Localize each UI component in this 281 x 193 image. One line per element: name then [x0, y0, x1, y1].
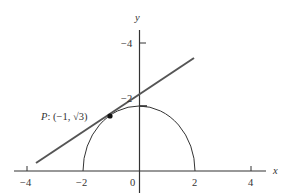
point-p-coords: : (−1, √3) [47, 111, 87, 123]
x-tick-label-4: 4 [248, 177, 254, 188]
x-tick-label-0: 0 [130, 177, 135, 188]
y-axis-label: y [134, 12, 140, 23]
y-ticks [140, 43, 148, 106]
x-axis-label: x [272, 165, 278, 176]
x-tick-label-2: 2 [192, 177, 197, 188]
x-tick-label-neg4: −4 [20, 177, 32, 188]
x-tick-label-neg2: −2 [76, 177, 87, 188]
y-tick-label-neg4: −4 [121, 38, 133, 49]
coordinate-plot: y x −4 −2 0 2 4 −4 −2 P: (−1, √3) [0, 0, 281, 193]
y-tick-label-neg2: −2 [121, 93, 132, 104]
point-p [107, 113, 112, 118]
point-p-label: P: (−1, √3) [40, 111, 88, 123]
